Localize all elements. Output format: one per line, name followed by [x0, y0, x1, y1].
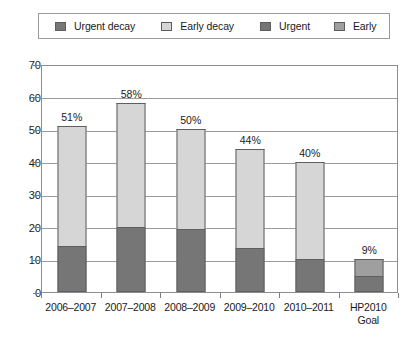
x-axis-tick-mark: [339, 293, 340, 298]
bar-segment: [295, 162, 324, 260]
x-axis-tick-mark: [41, 293, 42, 298]
bar-value-label: 9%: [362, 245, 377, 256]
y-axis: 010203040506070: [0, 0, 41, 300]
legend-swatch-icon: [161, 22, 172, 31]
y-axis-tick-mark: [33, 162, 39, 163]
y-axis-tick-mark: [33, 195, 39, 196]
legend-swatch-icon: [55, 22, 66, 31]
bar-value-label: 50%: [180, 115, 201, 126]
y-axis-tick-mark: [33, 65, 39, 66]
plot-area: 51%58%50%44%40%9%: [41, 65, 398, 293]
bar-value-label: 51%: [61, 112, 82, 123]
chart-legend: Urgent decay Early decay Urgent Early: [38, 13, 390, 39]
bar-segment: [355, 276, 384, 292]
x-axis-tick-label-line: HP2010: [332, 301, 404, 314]
y-axis-tick-mark: [33, 227, 39, 228]
bar-segment: [355, 259, 384, 275]
legend-item-urgent-decay: Urgent decay: [55, 21, 135, 32]
y-axis-tick-mark: [33, 130, 39, 131]
bar-segment: [176, 229, 205, 293]
bar-slot: 58%: [102, 66, 162, 292]
bar-segment: [117, 103, 146, 227]
bar[interactable]: [236, 149, 265, 292]
bar-segment: [236, 149, 265, 248]
bar[interactable]: [117, 103, 146, 292]
x-axis-tick-mark: [279, 293, 280, 298]
bar-value-label: 40%: [299, 148, 320, 159]
legend-label: Early decay: [180, 21, 234, 32]
legend-label: Early: [353, 21, 376, 32]
legend-label: Urgent: [279, 21, 310, 32]
x-axis: 2006–20072007–20082008–20092009–20102010…: [41, 293, 398, 341]
legend-item-urgent: Urgent: [260, 21, 310, 32]
bar-segment: [57, 246, 86, 292]
legend-item-early-decay: Early decay: [161, 21, 234, 32]
bar-segment: [295, 259, 324, 292]
y-axis-tick-mark: [33, 260, 39, 261]
bar-value-label: 58%: [121, 89, 142, 100]
x-axis-tick-label-line: Goal: [332, 314, 404, 327]
bar[interactable]: [295, 162, 324, 292]
x-axis-tick-mark: [220, 293, 221, 298]
y-axis-tick-mark: [33, 97, 39, 98]
bar[interactable]: [355, 259, 384, 292]
bar-slot: 9%: [340, 66, 400, 292]
bar-slot: 44%: [221, 66, 281, 292]
y-axis-tick-mark: [33, 293, 39, 294]
legend-label: Urgent decay: [74, 21, 135, 32]
legend-item-early: Early: [334, 21, 376, 32]
bar[interactable]: [57, 126, 86, 292]
bar-segment: [117, 227, 146, 292]
x-axis-tick-mark: [101, 293, 102, 298]
x-axis-tick-label: HP2010Goal: [332, 301, 404, 326]
bar-segment: [236, 248, 265, 292]
bar-segment: [57, 126, 86, 247]
bar-segment: [176, 129, 205, 228]
legend-swatch-icon: [334, 22, 345, 31]
bar[interactable]: [176, 129, 205, 292]
x-axis-tick-mark: [160, 293, 161, 298]
x-axis-tick-mark: [398, 293, 399, 298]
bar-value-label: 44%: [240, 135, 261, 146]
bar-slot: 50%: [161, 66, 221, 292]
bar-slot: 40%: [280, 66, 340, 292]
legend-swatch-icon: [260, 22, 271, 31]
bar-slot: 51%: [42, 66, 102, 292]
